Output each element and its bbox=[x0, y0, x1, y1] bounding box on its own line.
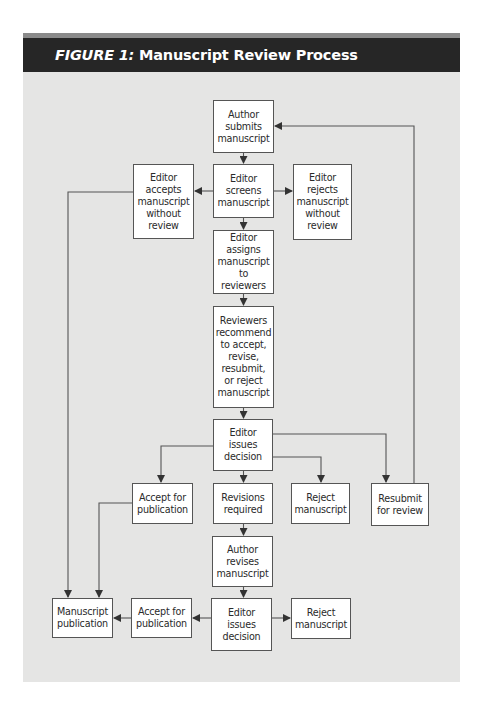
node-author-submits: Author submits manuscript bbox=[213, 100, 274, 153]
node-reject-manuscript-final: Reject manuscript bbox=[291, 598, 351, 639]
node-reject-manuscript: Reject manuscript bbox=[291, 483, 350, 524]
node-reviewers-recommend: Reviewers recommend to accept, revise, r… bbox=[213, 306, 274, 408]
node-author-revises: Author revises manuscript bbox=[212, 536, 273, 587]
node-editor-issues-decision-final: Editor issues decision bbox=[211, 598, 272, 651]
edge-decision-to-resubmit bbox=[273, 434, 386, 482]
edge-accept1-to-publication bbox=[99, 503, 132, 597]
edge-decision-to-reject bbox=[273, 457, 321, 482]
edge-accepts-to-publication bbox=[68, 192, 133, 597]
edge-decision-to-accept bbox=[161, 446, 213, 482]
node-editor-rejects-without-review: Editor rejects manuscript without review bbox=[293, 164, 352, 240]
node-revisions-required: Revisions required bbox=[213, 483, 273, 524]
node-accept-for-publication-final: Accept for publication bbox=[131, 598, 192, 638]
node-editor-accepts-without-review: Editor accepts manuscript without review bbox=[133, 164, 194, 239]
node-editor-assigns: Editor assigns manuscript to reviewers bbox=[213, 230, 274, 294]
node-resubmit-for-review: Resubmit for review bbox=[371, 483, 429, 526]
node-editor-screens: Editor screens manuscript bbox=[213, 164, 274, 218]
node-editor-issues-decision: Editor issues decision bbox=[213, 419, 273, 471]
node-accept-for-publication: Accept for publication bbox=[132, 483, 193, 524]
node-manuscript-publication: Manuscript publication bbox=[52, 598, 113, 638]
